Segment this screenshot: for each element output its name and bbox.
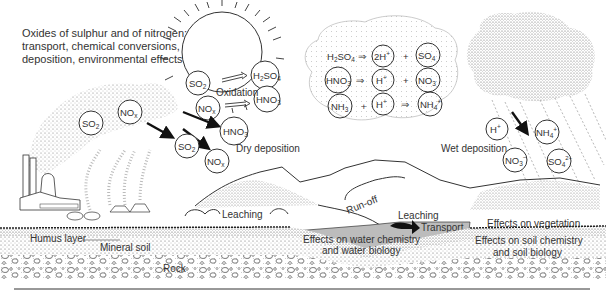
- svg-text:⇒: ⇒: [358, 51, 366, 62]
- wet-deposition-group: H+ NH4+ NO3− SO42− Wet deposition: [441, 118, 573, 173]
- forest-hill: [195, 180, 320, 208]
- svg-text:transport, chemical conversion: transport, chemical conversions,: [22, 40, 180, 52]
- svg-text:⇒: ⇒: [401, 99, 409, 110]
- diagram-title: Oxides of sulphur and of nitrogen: trans…: [22, 27, 187, 65]
- rain-cloud: [467, 12, 606, 190]
- reaction-cloud: H2SO4 ⇒ 2H+ + SO4 HNO3 ⇒ H+ + NO3 NH3 + …: [305, 16, 458, 120]
- svg-text:Dry deposition: Dry deposition: [236, 143, 300, 154]
- svg-text:Effects on vegetation: Effects on vegetation: [487, 218, 580, 229]
- svg-text:Rock: Rock: [163, 263, 187, 274]
- svg-text:Oxides of sulphur and of nitro: Oxides of sulphur and of nitrogen:: [22, 27, 187, 39]
- svg-text:and soil biology: and soil biology: [493, 247, 562, 258]
- svg-text:Leaching: Leaching: [398, 210, 439, 221]
- acid-deposition-diagram: Oxides of sulphur and of nitrogen: trans…: [0, 0, 606, 297]
- svg-text:+: +: [361, 101, 367, 112]
- svg-text:H2SO4: H2SO4: [327, 51, 355, 63]
- svg-text:NH4+: NH4+: [420, 98, 441, 111]
- svg-text:+: +: [403, 51, 409, 62]
- wet-deposition-arrow: [512, 112, 527, 133]
- leaching-left-group: Leaching: [185, 209, 288, 220]
- svg-text:+: +: [403, 75, 409, 86]
- svg-text:Leaching: Leaching: [222, 209, 263, 220]
- svg-text:Wet deposition: Wet deposition: [441, 143, 507, 154]
- svg-text:Effects on water chemistry: Effects on water chemistry: [303, 234, 420, 245]
- svg-text:⇒: ⇒: [356, 75, 364, 86]
- svg-text:Humus layer: Humus layer: [30, 233, 87, 244]
- svg-text:Oxidation: Oxidation: [216, 87, 258, 98]
- dry-deposition-group: SO2 HNO3 NOx Dry deposition: [147, 112, 300, 173]
- svg-text:Effects on soil chemistry: Effects on soil chemistry: [475, 235, 583, 246]
- molecule-h2so4: H2SO4: [253, 70, 281, 82]
- svg-text:deposition, environmental effe: deposition, environmental effects: [22, 53, 183, 65]
- svg-text:Mineral soil: Mineral soil: [100, 242, 151, 253]
- run-off-label: Run-off: [345, 193, 380, 215]
- svg-text:and water biology: and water biology: [322, 245, 400, 256]
- rock-layer: [0, 255, 606, 280]
